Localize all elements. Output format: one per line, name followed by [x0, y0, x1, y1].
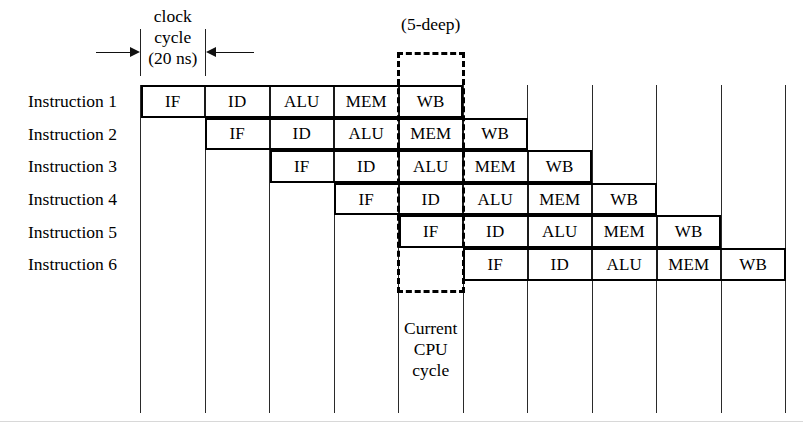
- pipeline-stage-cell: ALU: [528, 215, 593, 248]
- instruction-row-label-text: Instruction 3: [28, 156, 117, 177]
- pipeline-stage-cell: ALU: [463, 183, 528, 216]
- instruction-row-label-text: Instruction 1: [28, 91, 117, 112]
- instruction-row-label: Instruction 5: [0, 215, 138, 248]
- current-cycle-dashed-box: [397, 52, 466, 293]
- clock-cycle-tick-left: [140, 29, 141, 76]
- pipeline-stage-cell: WB: [657, 215, 722, 248]
- pipeline-stage-cell: ID: [528, 248, 593, 281]
- pipeline-stage-cell: WB: [721, 248, 786, 281]
- grid-vertical-line: [140, 85, 141, 413]
- clock-cycle-caption-line: cycle: [111, 27, 236, 48]
- instruction-row-label: Instruction 6: [0, 248, 138, 281]
- pipeline-stage-cell: MEM: [334, 85, 399, 118]
- instruction-row-label: Instruction 2: [0, 118, 138, 151]
- clock-cycle-arrow-left-head: [130, 47, 140, 57]
- pipeline-stage-cell: MEM: [463, 150, 528, 183]
- pipeline-stage-cell: ID: [463, 215, 528, 248]
- clock-cycle-caption: clockcycle(20 ns): [111, 6, 236, 69]
- pipeline-stage-cell: IF: [334, 183, 399, 216]
- pipeline-diagram: Instruction 1Instruction 2Instruction 3I…: [0, 0, 803, 427]
- pipeline-stage-cell: ID: [205, 85, 270, 118]
- pipeline-stage-cell: ALU: [592, 248, 657, 281]
- instruction-row-label: Instruction 4: [0, 183, 138, 216]
- clock-cycle-caption-line: clock: [111, 6, 236, 27]
- current-cycle-caption-line: CPU: [365, 339, 498, 360]
- pipeline-stage-cell: ID: [270, 118, 335, 151]
- pipeline-stage-cell: WB: [528, 150, 593, 183]
- instruction-row-label-text: Instruction 6: [28, 254, 117, 275]
- instruction-row-label: Instruction 3: [0, 150, 138, 183]
- instruction-row-label-text: Instruction 4: [28, 189, 117, 210]
- pipeline-stage-cell: MEM: [592, 215, 657, 248]
- instruction-row-label-text: Instruction 5: [28, 221, 117, 242]
- current-cycle-caption: CurrentCPUcycle: [365, 318, 498, 381]
- pipeline-stage-cell: MEM: [528, 183, 593, 216]
- clock-cycle-arrow-right-line: [216, 52, 254, 54]
- clock-cycle-arrow-right-head: [206, 47, 216, 57]
- pipeline-stage-cell: WB: [463, 118, 528, 151]
- pipeline-stage-cell: IF: [141, 85, 206, 118]
- instruction-row-label: Instruction 1: [0, 85, 138, 118]
- current-cycle-caption-line: cycle: [365, 360, 498, 381]
- instruction-row-label-text: Instruction 2: [28, 123, 117, 144]
- pipeline-stage-cell: ALU: [270, 85, 335, 118]
- pipeline-depth-label: (5-deep): [347, 14, 516, 35]
- pipeline-stage-cell: IF: [463, 248, 528, 281]
- scan-artifact-line: [0, 421, 803, 422]
- clock-cycle-arrow-left-line: [96, 52, 131, 54]
- pipeline-stage-cell: ALU: [334, 118, 399, 151]
- pipeline-stage-cell: IF: [205, 118, 270, 151]
- pipeline-stage-cell: MEM: [657, 248, 722, 281]
- current-cycle-caption-line: Current: [365, 318, 498, 339]
- pipeline-stage-cell: WB: [592, 183, 657, 216]
- pipeline-stage-cell: ID: [334, 150, 399, 183]
- pipeline-stage-cell: IF: [270, 150, 335, 183]
